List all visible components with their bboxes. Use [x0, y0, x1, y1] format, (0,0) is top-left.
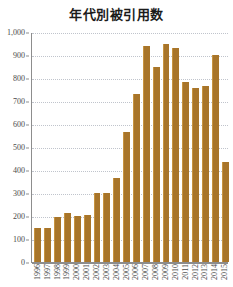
x-tick-label-1998: 1998 — [53, 264, 62, 280]
bar-1997 — [44, 228, 51, 262]
x-axis: 1996199719981999200020012002200320042005… — [31, 264, 228, 287]
bar-2002 — [94, 193, 101, 262]
y-tick-mark-1000 — [26, 33, 29, 34]
bars-layer — [32, 33, 228, 262]
y-tick-label-600: 600 — [13, 121, 25, 129]
bar-2012 — [192, 88, 199, 262]
bar-2011 — [182, 82, 189, 262]
y-tick-mark-400 — [26, 171, 29, 172]
x-tick-label-2009: 2009 — [161, 264, 170, 280]
x-tick-label-1997: 1997 — [43, 264, 52, 280]
y-tick-label-0: 0 — [21, 259, 25, 267]
x-tick-label-2015: 2015 — [220, 264, 229, 280]
x-tick-label-2000: 2000 — [72, 264, 81, 280]
bar-1999 — [64, 213, 71, 262]
plot-area — [31, 33, 228, 263]
x-tick-label-2014: 2014 — [210, 264, 219, 280]
bar-2014 — [212, 55, 219, 262]
bar-2009 — [163, 44, 170, 263]
y-tick-label-700: 700 — [13, 98, 25, 106]
bar-2010 — [172, 48, 179, 262]
y-tick-mark-700 — [26, 102, 29, 103]
y-tick-mark-100 — [26, 240, 29, 241]
bar-2005 — [123, 132, 130, 262]
bar-1998 — [54, 217, 61, 262]
x-tick-label-2013: 2013 — [200, 264, 209, 280]
y-tick-mark-900 — [26, 56, 29, 57]
x-tick-label-2007: 2007 — [141, 264, 150, 280]
x-tick-label-2008: 2008 — [151, 264, 160, 280]
x-tick-label-2002: 2002 — [92, 264, 101, 280]
x-tick-label-1996: 1996 — [33, 264, 42, 280]
y-tick-mark-300 — [26, 194, 29, 195]
y-tick-mark-200 — [26, 217, 29, 218]
bar-2013 — [202, 86, 209, 262]
bar-2004 — [113, 178, 120, 262]
x-tick-label-2005: 2005 — [122, 264, 131, 280]
y-tick-mark-600 — [26, 125, 29, 126]
bar-2001 — [84, 215, 91, 262]
x-tick-label-2012: 2012 — [191, 264, 200, 280]
bar-2008 — [153, 67, 160, 262]
y-tick-mark-500 — [26, 148, 29, 149]
x-tick-label-2010: 2010 — [171, 264, 180, 280]
y-tick-mark-0 — [26, 263, 29, 264]
y-tick-label-200: 200 — [13, 213, 25, 221]
bar-2006 — [133, 94, 140, 262]
y-tick-label-400: 400 — [13, 167, 25, 175]
chart-title: 年代別被引用数 — [0, 4, 233, 23]
x-tick-label-2006: 2006 — [131, 264, 140, 280]
y-tick-label-500: 500 — [13, 144, 25, 152]
y-tick-label-1000: 1,000 — [7, 29, 25, 37]
x-tick-label-2004: 2004 — [112, 264, 121, 280]
bar-2003 — [103, 193, 110, 262]
y-tick-label-900: 900 — [13, 52, 25, 60]
y-tick-mark-800 — [26, 79, 29, 80]
x-tick-label-2001: 2001 — [82, 264, 91, 280]
x-tick-label-1999: 1999 — [62, 264, 71, 280]
bar-2015 — [222, 162, 229, 262]
bar-1996 — [34, 228, 41, 262]
x-tick-label-2011: 2011 — [181, 264, 190, 280]
x-tick-label-2003: 2003 — [102, 264, 111, 280]
bar-chart: 年代別被引用数 1,000900800700600500400300200100… — [0, 0, 233, 287]
y-tick-label-300: 300 — [13, 190, 25, 198]
y-tick-label-100: 100 — [13, 236, 25, 244]
bar-2000 — [74, 216, 81, 262]
y-tick-label-800: 800 — [13, 75, 25, 83]
bar-2007 — [143, 46, 150, 262]
y-axis: 1,0009008007006005004003002001000 — [0, 33, 29, 263]
